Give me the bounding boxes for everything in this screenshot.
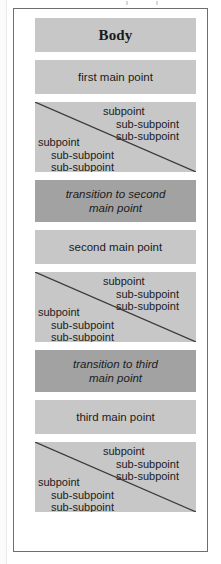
subpoint-label: subpoint <box>38 136 114 149</box>
subpoint-label: subpoint <box>103 445 179 458</box>
main-point-label: second main point <box>69 241 162 253</box>
page-title: Body <box>98 27 132 44</box>
page-canvas: Body first main point subpoint sub-subpo… <box>0 0 221 564</box>
sub-subpoint-label: sub-subpoint <box>103 130 179 143</box>
sub-subpoint-label: sub-subpoint <box>38 489 114 502</box>
sub-subpoint-label: sub-subpoint <box>103 458 179 471</box>
outline-block-subpoints: subpoint sub-subpoint sub-subpoint subpo… <box>35 272 196 342</box>
scan-left-edge <box>0 0 7 564</box>
sub-subpoint-label: sub-subpoint <box>103 288 179 301</box>
outline-block-main-point: second main point <box>35 230 196 264</box>
sub-subpoint-label: sub-subpoint <box>38 161 114 172</box>
subpoint-label: subpoint <box>38 306 114 319</box>
outline-block-subpoints: subpoint sub-subpoint sub-subpoint subpo… <box>35 442 196 512</box>
outline-block-main-point: third main point <box>35 400 196 434</box>
subpoint-label: subpoint <box>103 105 179 118</box>
subpoint-label: subpoint <box>38 476 114 489</box>
subpoint-group-upper: subpoint sub-subpoint sub-subpoint <box>103 275 179 313</box>
outline-block-transition: transition to second main point <box>35 180 196 222</box>
sub-subpoint-label: sub-subpoint <box>38 501 114 512</box>
transition-label-line1: transition to second <box>66 187 166 201</box>
subpoint-group-upper: subpoint sub-subpoint sub-subpoint <box>103 445 179 483</box>
diagram-frame: Body first main point subpoint sub-subpo… <box>13 8 208 552</box>
transition-label-line2: main point <box>89 371 142 385</box>
outline-block-title: Body <box>35 18 196 52</box>
subpoint-group-lower: subpoint sub-subpoint sub-subpoint <box>38 136 114 172</box>
subpoint-label: subpoint <box>103 275 179 288</box>
outline-block-stack: Body first main point subpoint sub-subpo… <box>35 18 196 520</box>
scan-top-tick <box>156 1 158 5</box>
outline-block-transition: transition to third main point <box>35 350 196 392</box>
transition-label-line2: main point <box>89 201 142 215</box>
subpoint-group-lower: subpoint sub-subpoint sub-subpoint <box>38 476 114 512</box>
main-point-label: third main point <box>76 411 155 423</box>
sub-subpoint-label: sub-subpoint <box>103 470 179 483</box>
sub-subpoint-label: sub-subpoint <box>103 300 179 313</box>
main-point-label: first main point <box>78 71 153 83</box>
sub-subpoint-label: sub-subpoint <box>103 118 179 131</box>
sub-subpoint-label: sub-subpoint <box>38 149 114 162</box>
subpoint-group-upper: subpoint sub-subpoint sub-subpoint <box>103 105 179 143</box>
outline-block-subpoints: subpoint sub-subpoint sub-subpoint subpo… <box>35 102 196 172</box>
transition-label-line1: transition to third <box>73 357 158 371</box>
scan-top-tick <box>126 1 128 5</box>
subpoint-group-lower: subpoint sub-subpoint sub-subpoint <box>38 306 114 342</box>
outline-block-main-point: first main point <box>35 60 196 94</box>
sub-subpoint-label: sub-subpoint <box>38 331 114 342</box>
sub-subpoint-label: sub-subpoint <box>38 319 114 332</box>
